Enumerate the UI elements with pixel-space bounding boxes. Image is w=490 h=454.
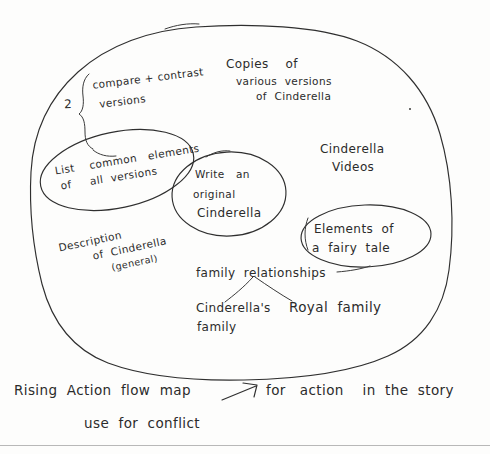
node-cinderellas-family-line1: Cinderella's (196, 301, 271, 315)
node-family-relationships-title: family relationships (196, 266, 326, 280)
node-write-original-line1: Write an (195, 168, 250, 180)
node-elements-fairy-tale-line2: a fairy tale (312, 241, 390, 255)
compare-contrast-counter: 2 (64, 97, 73, 111)
node-copies-line1: Copies of (226, 57, 298, 71)
node-cinderella-videos-line2: Videos (332, 160, 374, 174)
footer-line1-a: Rising Action flow map (14, 383, 191, 399)
handwritten-mindmap-page: 2 compare + contrast versions Copies of … (0, 0, 490, 454)
ellipse-elements-tail (305, 218, 308, 250)
node-write-original-line2: original (193, 188, 235, 200)
node-cinderella-videos-line1: Cinderella (320, 142, 384, 156)
footer-arrow-shaft (222, 386, 256, 400)
stray-ink-dot (409, 108, 411, 110)
node-cinderellas-family-line2: family (197, 320, 236, 334)
node-write-original-line3: Cinderella (197, 206, 261, 220)
node-elements-fairy-tale-line1: Elements of (314, 222, 394, 236)
node-copies-line2: various versions (236, 75, 332, 87)
footer-line1-b: for action in the story (266, 383, 454, 399)
connector-family-to-cinderella-family (225, 277, 253, 302)
connector-family-to-royal-family (255, 277, 292, 301)
footer-line2: use for conflict (84, 416, 200, 432)
page-bottom-rule (0, 445, 490, 446)
node-royal-family: Royal family (289, 300, 382, 316)
node-copies-line3: of Cinderella (256, 90, 331, 102)
